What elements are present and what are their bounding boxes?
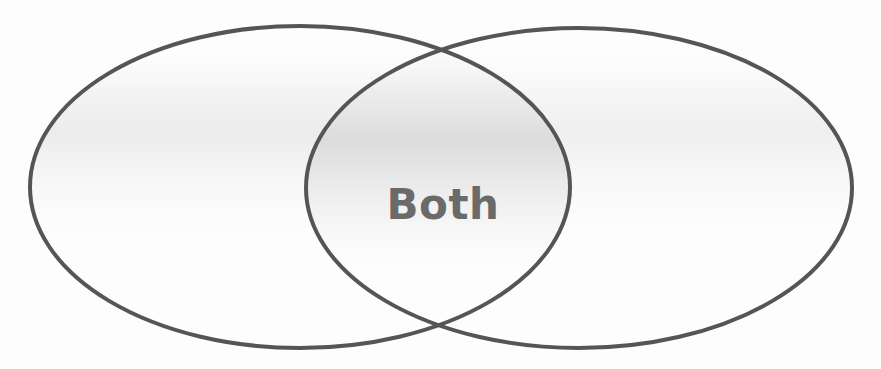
intersection-label: Both bbox=[387, 184, 500, 226]
venn-diagram: Both bbox=[0, 0, 881, 369]
